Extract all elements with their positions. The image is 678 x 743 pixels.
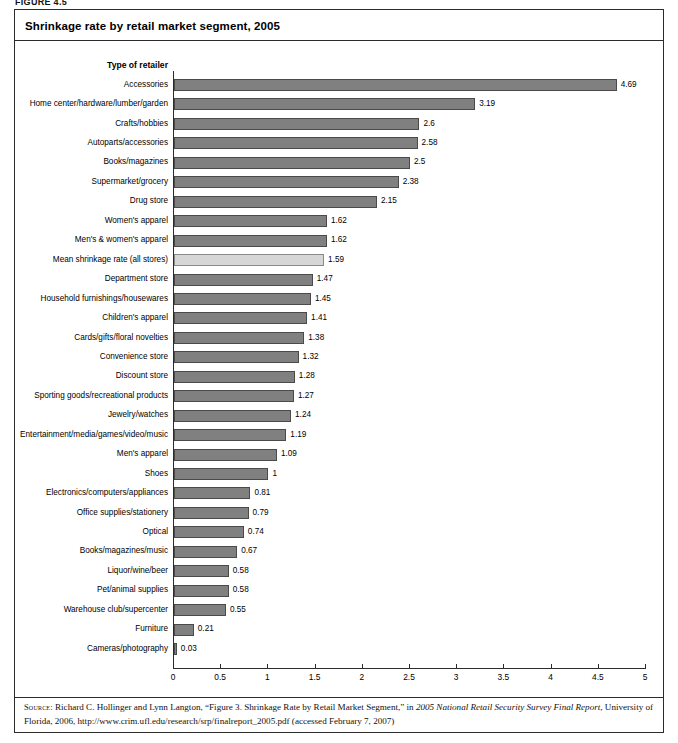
- bar-row: Convenience store1.32: [0, 351, 678, 370]
- category-label: Accessories: [5, 81, 168, 89]
- category-label: Cameras/photography: [5, 645, 168, 653]
- bar-row: Cards/gifts/floral novelties1.38: [0, 332, 678, 351]
- bar: [174, 215, 327, 227]
- bar: [174, 526, 244, 538]
- bar: [174, 604, 226, 616]
- bar-value-label: 0.03: [181, 645, 197, 653]
- category-label: Warehouse club/supercenter: [5, 606, 168, 614]
- bar-value-label: 0.79: [253, 509, 269, 517]
- bar: [174, 351, 299, 363]
- bar-row: Men's apparel1.09: [0, 449, 678, 468]
- bar-row: Entertainment/media/games/video/music1.1…: [0, 429, 678, 448]
- bar-row: Mean shrinkage rate (all stores)1.59: [0, 254, 678, 273]
- bar-mean: [174, 254, 324, 266]
- x-tick: [645, 664, 646, 668]
- category-label: Men's apparel: [5, 450, 168, 458]
- bar-row: Shoes1: [0, 468, 678, 487]
- category-label: Office supplies/stationery: [5, 509, 168, 517]
- bar-value-label: 1.28: [299, 372, 315, 380]
- category-label: Women's apparel: [5, 217, 168, 225]
- bar-row: Drug store2.15: [0, 196, 678, 215]
- category-label: Crafts/hobbies: [5, 120, 168, 128]
- bar-value-label: 0.58: [233, 567, 249, 575]
- source-italic-title: 2005 National Retail Security Survey Fin…: [416, 702, 600, 712]
- bar-row: Supermarket/grocery2.38: [0, 176, 678, 195]
- source-label: Source:: [24, 703, 53, 712]
- bar-value-label: 1.62: [331, 236, 347, 244]
- x-tick-label: 3: [436, 673, 476, 681]
- bar-value-label: 1.27: [298, 392, 314, 400]
- bar-row: Women's apparel1.62: [0, 215, 678, 234]
- category-label: Convenience store: [5, 353, 168, 361]
- bar-value-label: 1.59: [328, 256, 344, 264]
- category-label: Sporting goods/recreational products: [5, 392, 168, 400]
- bar: [174, 371, 295, 383]
- bar-value-label: 1.41: [311, 314, 327, 322]
- category-label: Men's & women's apparel: [5, 236, 168, 244]
- bar-chart: Type of retailer Accessories4.69Home cen…: [0, 0, 678, 743]
- category-label: Shoes: [5, 470, 168, 478]
- bar-value-label: 2.58: [422, 139, 438, 147]
- bar-row: Accessories4.69: [0, 79, 678, 98]
- bar-row: Cameras/photography0.03: [0, 643, 678, 662]
- x-axis-line: [173, 668, 646, 669]
- x-tick-label: 0.5: [200, 673, 240, 681]
- bar-value-label: 0.67: [241, 547, 257, 555]
- category-label: Household furnishings/housewares: [5, 295, 168, 303]
- bar-row: Home center/hardware/lumber/garden3.19: [0, 98, 678, 117]
- category-label: Books/magazines: [5, 158, 168, 166]
- bar: [174, 196, 377, 208]
- category-label: Books/magazines/music: [5, 547, 168, 555]
- x-tick: [173, 664, 174, 668]
- category-label: Children's apparel: [5, 314, 168, 322]
- category-label: Home center/hardware/lumber/garden: [5, 100, 168, 108]
- bar-row: Electronics/computers/appliances0.81: [0, 487, 678, 506]
- x-tick: [551, 664, 552, 668]
- figure-page: FIGURE 4.5 Shrinkage rate by retail mark…: [0, 0, 678, 743]
- bar-value-label: 1.47: [317, 275, 333, 283]
- bar: [174, 98, 475, 110]
- bar: [174, 176, 399, 188]
- bar-row: Pet/animal supplies0.58: [0, 585, 678, 604]
- bar: [174, 624, 194, 636]
- bar: [174, 274, 313, 286]
- bar: [174, 79, 617, 91]
- category-label: Department store: [5, 275, 168, 283]
- category-label: Electronics/computers/appliances: [5, 489, 168, 497]
- bar-value-label: 1.62: [331, 217, 347, 225]
- category-label: Drug store: [5, 197, 168, 205]
- bar: [174, 585, 229, 597]
- bar: [174, 157, 410, 169]
- bar: [174, 312, 307, 324]
- bar-row: Jewelry/watches1.24: [0, 410, 678, 429]
- bar: [174, 390, 294, 402]
- bar-value-label: 0.58: [233, 586, 249, 594]
- x-tick-label: 1: [247, 673, 287, 681]
- bar-value-label: 1.24: [295, 411, 311, 419]
- source-note: Source: Richard C. Hollinger and Lynn La…: [24, 701, 654, 727]
- x-tick: [267, 664, 268, 668]
- bar: [174, 118, 419, 130]
- x-tick: [456, 664, 457, 668]
- category-label: Mean shrinkage rate (all stores): [5, 256, 168, 264]
- x-tick: [598, 664, 599, 668]
- bar-value-label: 2.15: [381, 197, 397, 205]
- x-tick: [503, 664, 504, 668]
- category-label: Liquor/wine/beer: [5, 567, 168, 575]
- x-tick-label: 4.5: [578, 673, 618, 681]
- bar-row: Office supplies/stationery0.79: [0, 507, 678, 526]
- bar-row: Sporting goods/recreational products1.27: [0, 390, 678, 409]
- category-label: Supermarket/grocery: [5, 178, 168, 186]
- bar-value-label: 2.38: [403, 178, 419, 186]
- bar: [174, 449, 277, 461]
- bar-row: Men's & women's apparel1.62: [0, 235, 678, 254]
- bar-value-label: 2.5: [414, 158, 425, 166]
- bar-row: Children's apparel1.41: [0, 312, 678, 331]
- bar: [174, 546, 237, 558]
- bar-row: Crafts/hobbies2.6: [0, 118, 678, 137]
- category-label: Cards/gifts/floral novelties: [5, 334, 168, 342]
- source-text-1: Richard C. Hollinger and Lynn Langton, “…: [53, 702, 416, 712]
- bar-value-label: 1.09: [281, 450, 297, 458]
- x-tick: [362, 664, 363, 668]
- bar: [174, 643, 177, 655]
